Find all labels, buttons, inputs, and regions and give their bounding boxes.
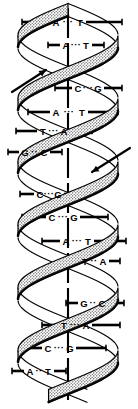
hydrogen-bond-dots: ···: [54, 342, 65, 353]
hydrogen-bond-dots: ···: [71, 39, 82, 50]
base-letter-right: T: [45, 366, 51, 377]
base-letter-right: T: [85, 236, 91, 247]
base-letter-right: A: [61, 126, 68, 137]
base-letter-right: G: [94, 83, 101, 94]
base-letter-left: A: [53, 17, 60, 28]
base-letter-left: G: [21, 147, 28, 158]
hydrogen-bond-dots: ···: [48, 125, 59, 136]
base-letter-right: G: [66, 343, 73, 354]
hydrogen-bond-dots: ··: [31, 146, 38, 157]
hydrogen-bond-dots: ··: [35, 365, 42, 376]
hydrogen-bond-dots: ··: [90, 255, 97, 266]
base-letter-right: A: [100, 256, 107, 267]
strand-direction-arrow-down-right: [92, 148, 130, 172]
base-letter-left: C: [49, 212, 56, 223]
base-letter-right: T: [83, 40, 89, 51]
hydrogen-bond-dots: ···: [44, 188, 55, 199]
base-letter-left: A: [27, 366, 34, 377]
hydrogen-bond-dots: ···: [72, 235, 83, 246]
dna-helix-drawing: A···TA···TC···GA···TT···AG··CC···GC···GA…: [0, 0, 138, 409]
base-letter-left: C: [37, 189, 44, 200]
hydrogen-bond-dots: ···: [63, 16, 74, 27]
hydrogen-bond-dots: ···: [58, 211, 69, 222]
base-letter-left: A: [63, 236, 70, 247]
dna-double-helix-figure: A···TA···TC···GA···TT···AG··CC···GC···GA…: [0, 0, 138, 409]
hydrogen-bond-dots: ···: [83, 82, 94, 93]
base-letter-right: A: [83, 320, 90, 331]
base-letter-left: T: [82, 256, 88, 267]
hydrogen-bond-dots: ···: [64, 106, 75, 117]
base-letter-right: T: [79, 107, 85, 118]
base-letter-right: T: [77, 17, 83, 28]
hydrogen-bond-dots: ···: [70, 319, 81, 330]
base-letter-left: C: [75, 83, 82, 94]
hydrogen-bond-dots: ··: [89, 297, 96, 308]
base-letter-left: T: [61, 320, 67, 331]
base-letter-left: G: [80, 298, 87, 309]
base-letter-right: C: [41, 147, 48, 158]
base-letter-right: C: [99, 298, 106, 309]
base-letter-right: G: [54, 189, 61, 200]
base-letter-left: C: [45, 343, 52, 354]
base-letter-right: G: [70, 212, 77, 223]
base-letter-left: T: [40, 126, 46, 137]
base-letter-left: A: [53, 107, 60, 118]
base-letter-left: A: [63, 40, 70, 51]
